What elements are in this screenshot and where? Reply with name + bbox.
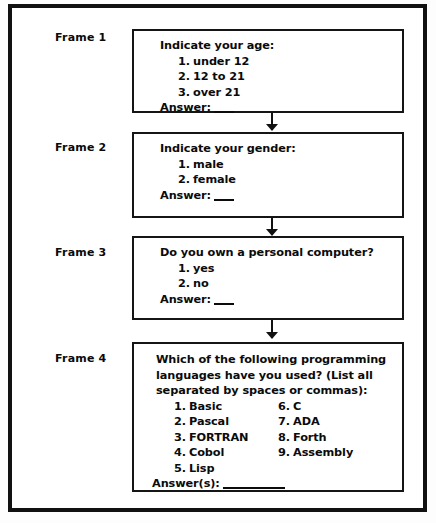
option-number: 1. [178, 157, 193, 173]
option-number: 2. [178, 69, 193, 85]
option-number: 1. [178, 54, 193, 70]
option-number: 2. [178, 172, 193, 188]
frame-4-option-list-left: 1.Basic 2.Pascal 3.FORTRAN 4.Cobol 5.Lis [156, 399, 260, 477]
frame-label-3: Frame 3 [55, 246, 106, 259]
option-number: 9. [278, 445, 293, 461]
frame-3-option-1: 1.yes [160, 261, 402, 277]
frame-3-option-list: 1.yes 2.no [160, 261, 402, 292]
frame-4-option-5: 5.Lisp [156, 461, 260, 477]
option-text: C [293, 400, 301, 413]
option-text: Cobol [189, 446, 224, 459]
option-number: 3. [178, 85, 193, 101]
frame-4-question: Which of the following programming langu… [156, 352, 388, 399]
frame-4-option-2: 2.Pascal [156, 414, 260, 430]
option-number: 1. [174, 399, 189, 415]
option-text: Pascal [189, 415, 229, 428]
frame-1-option-2: 2.12 to 21 [160, 69, 402, 85]
frame-4-option-3: 3.FORTRAN [156, 430, 260, 446]
frame-box-3: Do you own a personal computer? 1.yes 2.… [132, 236, 404, 320]
option-number: 2. [174, 414, 189, 430]
frame-4-option-columns: 1.Basic 2.Pascal 3.FORTRAN 4.Cobol 5.Lis [156, 399, 402, 477]
frame-2-answer-line: Answer: [160, 188, 402, 204]
frame-4-option-4: 4.Cobol [156, 445, 260, 461]
answer-label: Answer: [160, 293, 211, 306]
arrow-frame1-to-frame2 [266, 113, 278, 131]
figure-outer-border: Frame 1 Indicate your age: 1.under 12 2.… [8, 4, 427, 512]
frame-box-4: Which of the following programming langu… [132, 342, 404, 492]
frame-4-option-6: 6.C [260, 399, 360, 415]
option-number: 8. [278, 430, 293, 446]
scanned-page: Frame 1 Indicate your age: 1.under 12 2.… [0, 0, 436, 523]
option-number: 4. [174, 445, 189, 461]
answer-label: Answer(s): [152, 477, 220, 490]
frame-box-1: Indicate your age: 1.under 12 2.12 to 21… [132, 29, 404, 113]
frame-1-question: Indicate your age: [160, 38, 402, 54]
option-text: ADA [293, 415, 320, 428]
frame-3-answer-line: Answer: [160, 292, 402, 308]
frame-1-option-3: 3.over 21 [160, 85, 402, 101]
option-text: Lisp [189, 462, 214, 475]
frame-1-option-1: 1.under 12 [160, 54, 402, 70]
option-number: 3. [174, 430, 189, 446]
frame-4-option-9: 9.Assembly [260, 445, 360, 461]
answer-blank[interactable] [214, 303, 234, 305]
option-number: 5. [174, 461, 189, 477]
frame-2-option-2: 2.female [160, 172, 402, 188]
frame-2-option-list: 1.male 2.female [160, 157, 402, 188]
frame-3-option-2: 2.no [160, 276, 402, 292]
answer-label: Answer: [160, 101, 211, 114]
frame-4-answer-line: Answer(s): [152, 476, 402, 492]
option-text: FORTRAN [189, 431, 248, 444]
frame-label-4: Frame 4 [55, 352, 106, 365]
option-text: Forth [293, 431, 327, 444]
frame-1-option-list: 1.under 12 2.12 to 21 3.over 21 [160, 54, 402, 101]
answer-label: Answer: [160, 189, 211, 202]
option-text: female [193, 173, 236, 186]
frame-label-2: Frame 2 [55, 141, 106, 154]
answer-blank[interactable] [214, 111, 234, 113]
option-text: under 12 [193, 55, 249, 68]
frame-4-option-8: 8.Forth [260, 430, 360, 446]
option-number: 2. [178, 276, 193, 292]
option-text: Basic [189, 400, 222, 413]
arrow-frame3-to-frame4 [266, 320, 278, 340]
option-text: 12 to 21 [193, 70, 245, 83]
frame-2-option-1: 1.male [160, 157, 402, 173]
option-text: yes [193, 262, 214, 275]
frame-2-question: Indicate your gender: [160, 141, 402, 157]
answer-blank[interactable] [214, 199, 234, 201]
frame-3-question: Do you own a personal computer? [160, 245, 402, 261]
option-number: 6. [278, 399, 293, 415]
frame-box-2: Indicate your gender: 1.male 2.female An… [132, 132, 404, 218]
option-text: no [193, 277, 209, 290]
option-text: over 21 [193, 86, 240, 99]
frame-4-option-7: 7.ADA [260, 414, 360, 430]
arrow-frame2-to-frame3 [266, 218, 278, 236]
option-number: 1. [178, 261, 193, 277]
option-text: male [193, 158, 224, 171]
answer-blank[interactable] [223, 487, 285, 489]
frame-1-answer-line: Answer: [160, 100, 402, 116]
frame-4-option-list-right: 6.C 7.ADA 8.Forth 9.Assembly [260, 399, 360, 477]
frame-4-option-1: 1.Basic [156, 399, 260, 415]
option-number: 7. [278, 414, 293, 430]
frame-label-1: Frame 1 [55, 31, 106, 44]
option-text: Assembly [293, 446, 353, 459]
